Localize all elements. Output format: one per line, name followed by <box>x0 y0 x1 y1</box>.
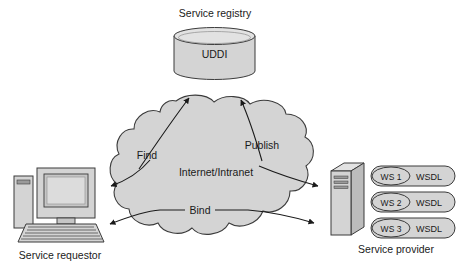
service-requestor-caption: Service requestor <box>19 249 102 261</box>
network-label: Internet/Intranet <box>179 166 253 178</box>
uddi-label: UDDI <box>202 48 228 60</box>
service-provider-group: WS 1 WSDL WS 2 WSDL WS 3 WSDL Service pr… <box>331 163 455 255</box>
desktop-computer-icon <box>14 168 104 242</box>
server-tower-icon <box>331 163 364 235</box>
wsdl-label: WSDL <box>416 172 442 182</box>
soa-diagram: Service registry UDDI Internet/Intranet <box>0 0 462 272</box>
web-service-item[interactable]: WS 1 WSDL <box>371 166 455 186</box>
service-registry-group: Service registry UDDI <box>174 7 255 80</box>
service-requestor-group: Service requestor <box>14 168 104 261</box>
web-service-item[interactable]: WS 2 WSDL <box>371 192 455 212</box>
service-provider-caption: Service provider <box>358 243 434 255</box>
ws-label: WS 2 <box>381 198 402 208</box>
web-service-item[interactable]: WS 3 WSDL <box>371 218 455 238</box>
ws-label: WS 3 <box>381 224 402 234</box>
ws-label: WS 1 <box>381 172 402 182</box>
diagram-canvas: Service registry UDDI Internet/Intranet <box>0 0 462 272</box>
service-registry-caption: Service registry <box>179 7 252 19</box>
wsdl-label: WSDL <box>416 224 442 234</box>
wsdl-label: WSDL <box>416 198 442 208</box>
publish-label: Publish <box>245 139 280 151</box>
bind-label: Bind <box>189 204 210 216</box>
find-label: Find <box>137 149 158 161</box>
